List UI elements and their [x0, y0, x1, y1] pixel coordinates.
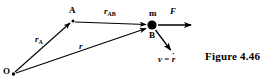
- vector-label-F-base: F: [170, 6, 176, 16]
- vector-label-rA: rA: [35, 35, 43, 44]
- point-label-b: B: [149, 31, 155, 40]
- mass-particle-dot: [147, 20, 156, 29]
- point-a-dot: [72, 20, 75, 23]
- origin-point-dot: [12, 72, 15, 75]
- vector-label-rAB: rAB: [104, 7, 116, 16]
- vector-label-rAB-subscript: AB: [108, 11, 116, 17]
- mass-label-m: m: [149, 9, 157, 18]
- equals-sign: =: [162, 54, 172, 64]
- vector-label-r: r: [79, 42, 83, 51]
- vector-label-F: F: [170, 7, 176, 16]
- vector-label-rAB-base: r: [104, 6, 108, 16]
- r-dot-group: ·r: [172, 55, 176, 64]
- vector-label-velocity: v = ·r: [158, 55, 175, 64]
- vector-line-rA: [15, 23, 70, 72]
- vector-label-r-base: r: [79, 41, 83, 51]
- vector-line-v: [156, 30, 171, 50]
- point-label-o: O: [3, 67, 10, 76]
- figure-caption: Figure 4.46: [205, 50, 260, 62]
- vector-label-rA-subscript: A: [39, 39, 43, 45]
- vector-line-rAB: [75, 22, 146, 25]
- point-label-a: A: [69, 6, 76, 15]
- vector-label-rA-base: r: [35, 34, 39, 44]
- overdot-accent: ·: [172, 50, 175, 58]
- figure-container: rAB rA r F v = ·r A m B O Figure 4.46: [0, 0, 274, 84]
